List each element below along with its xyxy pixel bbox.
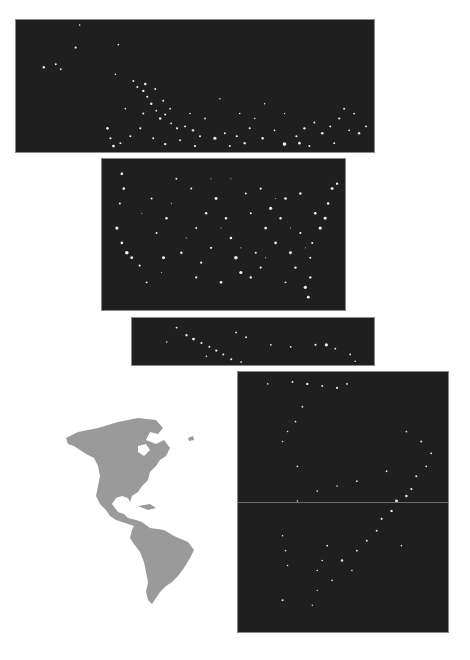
city-lights-northern — [16, 20, 374, 152]
americas-silhouette-map — [38, 400, 198, 610]
night-panel-south-america — [237, 371, 449, 633]
city-lights-mexico — [132, 318, 374, 365]
panel-seam-line — [238, 502, 448, 503]
city-lights-usa — [102, 159, 345, 310]
night-panel-northern-north-america — [15, 19, 375, 153]
americas-landmass — [38, 400, 198, 610]
composite-image — [0, 0, 470, 660]
night-panel-usa — [101, 158, 346, 311]
night-panel-mexico-central-america — [131, 317, 375, 366]
